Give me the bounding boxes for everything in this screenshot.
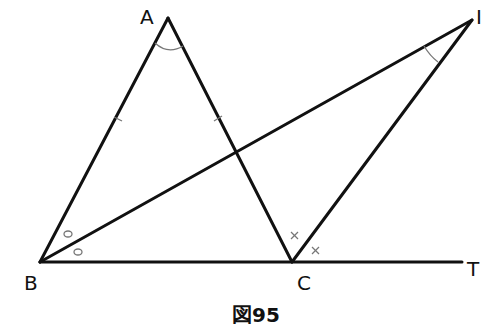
angle-circle-mark-2 <box>74 249 82 255</box>
geometry-figure: A B C I T 図95 <box>0 0 481 332</box>
label-A: A <box>140 5 154 29</box>
angle-circle-mark-1 <box>64 231 72 237</box>
segment-AC <box>168 18 292 262</box>
label-B: B <box>24 271 38 295</box>
label-T: T <box>466 257 480 281</box>
label-C: C <box>297 271 311 295</box>
angle-cross-mark-2 <box>312 247 319 254</box>
angle-arc-I <box>424 46 438 62</box>
segment-CI <box>292 20 472 262</box>
label-I: I <box>476 5 481 29</box>
angle-cross-mark-1 <box>291 232 298 239</box>
angle-arc-A <box>155 43 183 50</box>
figure-caption: 図95 <box>232 303 280 327</box>
